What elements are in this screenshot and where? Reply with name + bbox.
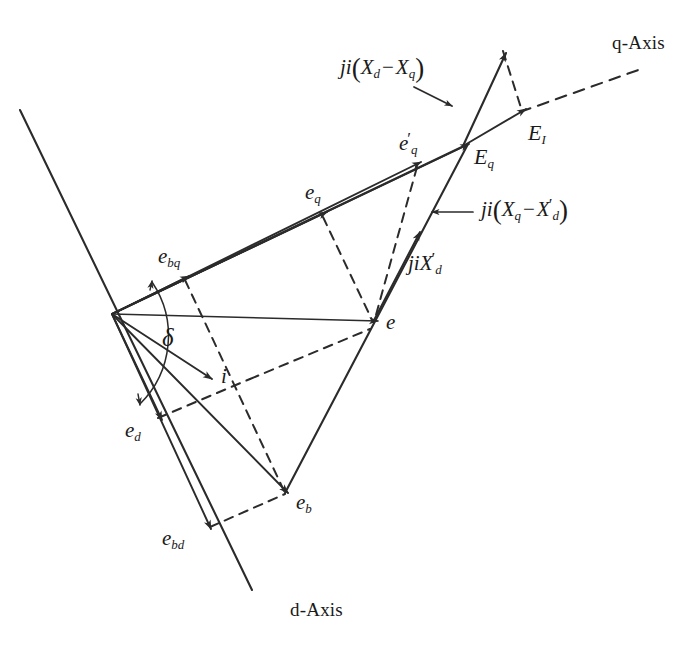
expr1-operator: − (380, 55, 396, 79)
label-e-base: e (386, 310, 395, 334)
vector-e (112, 314, 378, 321)
vector-e-b (112, 314, 288, 493)
label-E-I-base: E (528, 120, 541, 145)
label-e-bd: ebd (162, 528, 184, 551)
label-E-q-base: E (474, 144, 487, 169)
label-e: e (386, 312, 395, 333)
label-E-q: Eq (474, 146, 494, 170)
expr1-close-paren: ) (415, 53, 424, 83)
dashed-e-d-projection (158, 379, 250, 418)
d-axis-line (20, 110, 252, 590)
label-i-base: i (221, 364, 227, 388)
dashed-e-bd-to-e-b (210, 494, 285, 527)
label-e-bq-base: e (158, 244, 167, 268)
label-E-I: EI (528, 122, 546, 146)
dashed-e-q-to-e (323, 217, 373, 322)
phasor-diagram-figure: q-Axis d-Axis δ ebq eq e′q Eq EI e i ed … (0, 0, 691, 658)
label-e-q: eq (305, 182, 321, 205)
label-E-q-sub: q (487, 156, 494, 171)
expr2-open-paren: ( (493, 195, 502, 225)
expr2-term2-base: X (537, 197, 550, 221)
pointer-ji-Xd-minus-Xq (414, 87, 452, 106)
d-axis-label: d-Axis (290, 600, 343, 619)
label-e-d-base: e (125, 418, 134, 442)
label-e-b-sub: b (305, 501, 312, 516)
delta-arc-arrow-lower (138, 394, 140, 405)
expr1-open-paren: ( (352, 53, 361, 83)
label-e-q-prime-sub: q (411, 142, 418, 157)
delta-arc-arrow-upper (150, 281, 152, 290)
expr3-base: X (420, 251, 433, 275)
dashed-e-q-prime-to-e (374, 167, 417, 322)
expr1-term2-base: X (396, 55, 409, 79)
delta-angle-label: δ (162, 325, 174, 350)
label-e-q-sub: q (314, 191, 321, 206)
line-ji-Xd-minus-Xq (463, 53, 506, 146)
label-e-bd-sub: bd (171, 537, 184, 552)
label-i: i (221, 366, 227, 387)
expr2-close-paren: ) (559, 195, 568, 225)
expr2-lead: ji (481, 197, 493, 221)
expr1-term1-base: X (361, 55, 374, 79)
label-ji-Xq-minus-Xd-prime: ji(Xq−X′d) (481, 196, 568, 224)
label-e-bq-sub: bq (167, 255, 180, 270)
label-e-d: ed (125, 420, 141, 443)
expr1-lead: ji (340, 55, 352, 79)
label-e-q-prime: e′q (399, 130, 418, 156)
expr3-lead: ji (408, 251, 420, 275)
q-axis-dashed-extension (520, 69, 641, 112)
label-e-bd-base: e (162, 526, 171, 550)
label-E-I-sub: I (541, 132, 545, 147)
arrow-jiXd-prime (373, 232, 420, 322)
expr3-sub: d (435, 262, 442, 277)
expr2-term1-base: X (502, 197, 515, 221)
dashed-top-triangle-side (503, 51, 522, 111)
label-e-bq: ebq (158, 246, 180, 269)
dashed-e-bq-to-e-b (185, 280, 285, 493)
dashed-e-d-to-e (250, 329, 370, 379)
label-e-d-sub: d (134, 429, 141, 444)
phasor-diagram-canvas (0, 0, 691, 658)
q-axis-label: q-Axis (612, 33, 665, 52)
expr2-operator: − (521, 197, 537, 221)
label-e-b: eb (296, 492, 312, 515)
label-e-q-base: e (305, 180, 314, 204)
label-jiXd-prime: jiX′d (408, 250, 442, 276)
label-ji-Xd-minus-Xq: ji(Xd−Xq) (340, 55, 424, 82)
label-e-b-base: e (296, 490, 305, 514)
